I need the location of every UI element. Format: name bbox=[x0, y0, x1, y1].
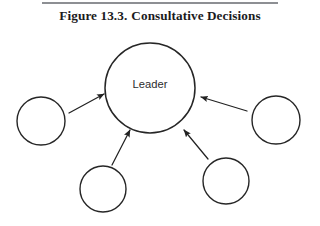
node-member-left[interactable] bbox=[17, 97, 65, 145]
node-member-right[interactable] bbox=[252, 96, 300, 144]
node-leader-label: Leader bbox=[133, 78, 168, 90]
arrow-bottom-right-to-leader bbox=[184, 130, 208, 159]
figure-root: Figure 13.3.Consultative Decisions Leade… bbox=[0, 0, 320, 226]
leader-node-group[interactable]: Leader bbox=[105, 43, 195, 133]
arrow-bottom-left-to-leader bbox=[112, 130, 130, 165]
node-member-bottom-right[interactable] bbox=[203, 158, 249, 204]
arrow-left-to-leader bbox=[69, 94, 104, 113]
arrow-right-to-leader bbox=[201, 97, 247, 111]
consultative-decisions-diagram: Leader bbox=[0, 0, 320, 226]
node-member-bottom-left[interactable] bbox=[80, 166, 126, 212]
